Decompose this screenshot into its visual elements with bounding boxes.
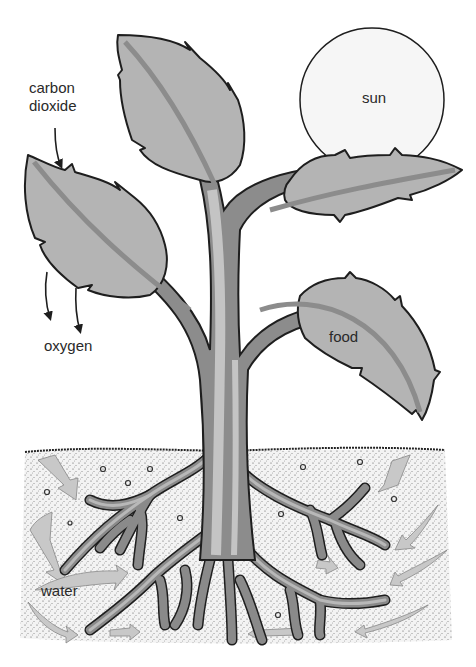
co2-arrow bbox=[55, 128, 61, 166]
food-label: food bbox=[329, 328, 358, 346]
leaf-right-lower bbox=[298, 272, 440, 420]
carbon-dioxide-label-line1: carbon bbox=[29, 79, 77, 97]
water-label: water bbox=[41, 582, 78, 600]
sun-label: sun bbox=[362, 89, 386, 107]
oxygen-arrow-1 bbox=[46, 272, 50, 318]
oxygen-arrow-2 bbox=[76, 288, 80, 331]
carbon-dioxide-label-line2: dioxide bbox=[29, 97, 77, 115]
carbon-dioxide-label: carbon dioxide bbox=[29, 79, 77, 115]
oxygen-label: oxygen bbox=[44, 337, 92, 355]
